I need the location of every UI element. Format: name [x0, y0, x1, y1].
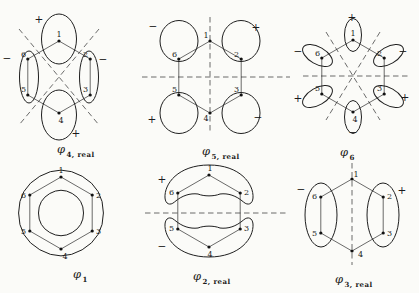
- lobe-c6: [160, 21, 198, 62]
- phase-signs: + −: [158, 173, 167, 252]
- phi-symbol: φ: [57, 142, 65, 156]
- phase-sign: +: [252, 21, 261, 33]
- atom-label: 4: [58, 116, 63, 125]
- lobe-c1: [42, 14, 77, 64]
- caption-phi-1: φ1: [73, 263, 88, 284]
- atom-label: 2: [83, 50, 88, 59]
- phi-subscript: 1: [83, 275, 88, 284]
- phase-sign: +: [148, 113, 157, 125]
- phi-subscript: 5, real: [212, 152, 240, 161]
- atom-label: 2: [234, 50, 239, 59]
- phase-sign: −: [294, 45, 303, 57]
- caption-phi-4-real: φ4, real: [57, 138, 94, 159]
- atom-label: 1: [56, 30, 61, 39]
- atom-label: 5: [21, 227, 26, 236]
- atom-label: 6: [315, 49, 320, 58]
- phase-sign: +: [158, 173, 167, 185]
- atom-label: 5: [169, 224, 174, 233]
- phi-symbol: φ: [202, 144, 210, 158]
- atom-label: 5: [172, 85, 177, 94]
- atom-label: 2: [244, 188, 249, 197]
- caption-phi-3-real: φ3, real: [335, 268, 372, 289]
- orbital-lobes: [19, 170, 104, 256]
- atom-label: 2: [387, 192, 392, 201]
- phase-sign: −: [149, 20, 158, 32]
- atom-numbers: 1 2 3 4 5 6: [169, 164, 249, 259]
- atom-label: 6: [21, 50, 26, 59]
- atom-label: 4: [203, 114, 208, 123]
- phase-sign: −: [399, 45, 408, 57]
- panel-phi-6: 1 2 3 4 5 6 + − + − + −: [294, 11, 410, 138]
- lobe-c5: [160, 93, 198, 134]
- panel-phi-1: 1 2 3 4 5 6: [19, 166, 104, 261]
- orbital-lobes: [165, 165, 253, 257]
- atom-label: 3: [234, 85, 239, 94]
- phi-symbol: φ: [193, 269, 201, 283]
- atom-label: 3: [96, 227, 101, 236]
- hexagon-bonds: [178, 175, 240, 247]
- phase-sign: +: [348, 11, 357, 23]
- atom-label: 6: [172, 50, 177, 59]
- atom-numbers: 1 2 3 4 5 6: [21, 166, 101, 261]
- phase-sign: −: [3, 52, 12, 64]
- nodal-lines: [142, 17, 290, 134]
- atom-label: 4: [352, 115, 357, 124]
- phase-sign: +: [398, 184, 407, 196]
- panel-phi-4-real: 1 2 3 4 5 6 + − − +: [3, 13, 108, 140]
- atom-label: 3: [83, 85, 88, 94]
- atom-label: 6: [21, 191, 26, 200]
- phi-symbol: φ: [335, 272, 343, 286]
- atom-label: 1: [58, 166, 63, 175]
- atom-label: 1: [350, 29, 355, 38]
- atom-label: 5: [21, 85, 26, 94]
- atom-label: 3: [387, 229, 392, 238]
- phase-sign: −: [254, 111, 263, 123]
- phase-sign: −: [99, 53, 108, 65]
- atom-label: 2: [377, 49, 382, 58]
- nodal-lines: [19, 29, 99, 125]
- atom-label: 4: [358, 250, 363, 259]
- phase-sign: +: [35, 13, 44, 25]
- lobe-inner-ring: [39, 190, 84, 236]
- phase-sign: +: [401, 91, 410, 103]
- atom-label: 3: [244, 224, 249, 233]
- atom-dots: [176, 173, 242, 248]
- panel-phi-3-real: 1 2 3 4 5 6 − +: [297, 163, 407, 265]
- phase-signs: + − − +: [3, 13, 108, 139]
- phi-symbol: φ: [73, 267, 81, 281]
- phi-subscript: 4, real: [67, 150, 95, 159]
- atom-dots: [319, 177, 385, 252]
- atom-label: 5: [312, 229, 317, 238]
- atom-label: 1: [207, 164, 212, 173]
- atom-label: 4: [207, 250, 212, 259]
- atom-label: 6: [312, 192, 317, 201]
- panel-phi-2-real: 1 2 3 4 5 6 + −: [145, 164, 287, 259]
- phase-sign: −: [349, 126, 358, 138]
- caption-phi-2-real: φ2, real: [193, 265, 230, 286]
- panel-phi-5-real: 1 2 3 4 5 6 − + + −: [142, 17, 290, 134]
- benzene-mo-figure: 1 2 3 4 5 6 + − − +: [0, 0, 419, 293]
- phi-symbol: φ: [340, 145, 348, 159]
- atom-label: 2: [96, 191, 101, 200]
- phi-subscript: 3, real: [345, 280, 373, 289]
- atom-label: 4: [62, 252, 67, 261]
- atom-label: 6: [169, 188, 174, 197]
- hexagon-bonds: [28, 41, 90, 113]
- atom-label: 3: [377, 84, 382, 93]
- phase-sign: −: [158, 240, 167, 252]
- atom-label: 1: [203, 31, 208, 40]
- phi-subscript: 2, real: [203, 277, 231, 286]
- lobe-outer-ring: [19, 170, 104, 256]
- hexagon-bonds: [30, 177, 92, 249]
- phase-sign: +: [294, 92, 303, 104]
- atom-label: 5: [315, 84, 320, 93]
- caption-phi-5-real: φ5, real: [202, 140, 239, 161]
- phi-subscript: 6: [350, 153, 355, 162]
- phase-sign: −: [297, 183, 306, 195]
- atom-label: 1: [353, 170, 358, 179]
- caption-phi-6: φ6: [340, 141, 355, 162]
